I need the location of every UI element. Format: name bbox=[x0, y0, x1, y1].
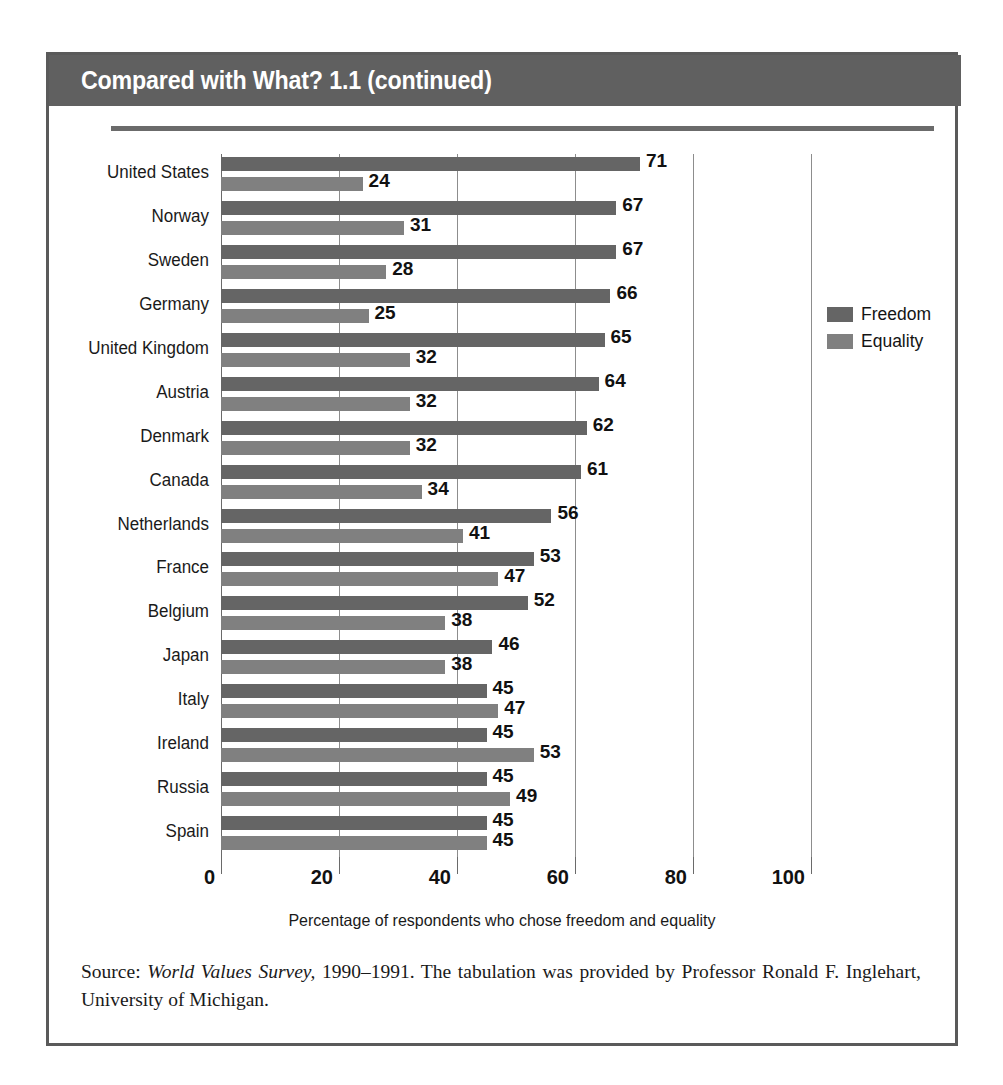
category-label: Russia bbox=[54, 777, 209, 798]
bar-group: 6625 bbox=[221, 287, 811, 331]
source-note: Source: World Values Survey, 1990–1991. … bbox=[81, 958, 921, 1014]
bar-value-freedom: 64 bbox=[605, 374, 626, 388]
tick-mark-100 bbox=[811, 857, 812, 874]
bar-freedom bbox=[221, 201, 616, 215]
bar-group: 6532 bbox=[221, 331, 811, 375]
bar-group: 4545 bbox=[221, 814, 811, 858]
legend-swatch-freedom bbox=[827, 307, 853, 322]
bar-value-freedom: 45 bbox=[493, 769, 514, 783]
bar-value-equality: 53 bbox=[540, 745, 561, 759]
source-prefix: Source: bbox=[81, 961, 147, 982]
bar-group: 6432 bbox=[221, 375, 811, 419]
bar-value-freedom: 45 bbox=[493, 681, 514, 695]
bar-value-freedom: 65 bbox=[611, 330, 632, 344]
tick-label-60: 60 bbox=[513, 866, 569, 889]
bar-freedom bbox=[221, 509, 551, 523]
bar-value-equality: 34 bbox=[428, 482, 449, 496]
bar-value-equality: 24 bbox=[369, 174, 390, 188]
tick-mark-40 bbox=[457, 857, 458, 874]
bar-freedom bbox=[221, 333, 605, 347]
figure-box: Compared with What? 1.1 (continued) Unit… bbox=[46, 52, 958, 1046]
legend-item-freedom: Freedom bbox=[827, 302, 957, 329]
category-label: Denmark bbox=[54, 426, 209, 447]
bar-equality bbox=[221, 397, 410, 411]
bar-value-freedom: 67 bbox=[622, 198, 643, 212]
figure-title: Compared with What? 1.1 (continued) bbox=[81, 66, 492, 95]
axis-title: Percentage of respondents who chose free… bbox=[63, 911, 942, 930]
bar-equality bbox=[221, 265, 386, 279]
bar-value-freedom: 66 bbox=[616, 286, 637, 300]
bar-group: 4553 bbox=[221, 726, 811, 770]
category-label: Netherlands bbox=[54, 514, 209, 535]
legend-label-freedom: Freedom bbox=[861, 302, 931, 327]
category-label: Belgium bbox=[54, 601, 209, 622]
bar-value-equality: 25 bbox=[375, 306, 396, 320]
figure-header-band: Compared with What? 1.1 (continued) bbox=[49, 55, 961, 106]
bar-freedom bbox=[221, 552, 534, 566]
bar-freedom bbox=[221, 421, 587, 435]
bar-equality bbox=[221, 529, 463, 543]
bar-value-equality: 45 bbox=[493, 833, 514, 847]
bar-equality bbox=[221, 177, 363, 191]
bar-equality bbox=[221, 660, 445, 674]
bar-equality bbox=[221, 792, 510, 806]
bar-freedom bbox=[221, 816, 487, 830]
category-label: Italy bbox=[54, 689, 209, 710]
bar-value-freedom: 45 bbox=[493, 813, 514, 827]
value-axis-line bbox=[221, 857, 812, 859]
bar-freedom bbox=[221, 289, 610, 303]
bar-equality bbox=[221, 485, 422, 499]
bar-group: 4638 bbox=[221, 638, 811, 682]
bar-equality bbox=[221, 616, 445, 630]
bar-value-equality: 41 bbox=[469, 526, 490, 540]
bar-value-equality: 32 bbox=[416, 394, 437, 408]
bar-value-freedom: 52 bbox=[534, 593, 555, 607]
bar-equality bbox=[221, 572, 498, 586]
bar-freedom bbox=[221, 684, 487, 698]
bar-value-freedom: 71 bbox=[646, 154, 667, 168]
bar-value-freedom: 67 bbox=[622, 242, 643, 256]
bar-value-equality: 49 bbox=[516, 789, 537, 803]
bar-group: 7124 bbox=[221, 155, 811, 199]
legend-label-equality: Equality bbox=[861, 329, 923, 354]
figure-body: United StatesNorwaySwedenGermanyUnited K… bbox=[49, 106, 955, 1043]
bar-value-freedom: 56 bbox=[557, 506, 578, 520]
plot-area: 7124673167286625653264326232613456415347… bbox=[221, 154, 811, 857]
tick-mark-0 bbox=[221, 857, 222, 874]
bar-equality bbox=[221, 353, 410, 367]
bar-value-equality: 38 bbox=[451, 613, 472, 627]
bar-freedom bbox=[221, 728, 487, 742]
bar-value-equality: 47 bbox=[504, 701, 525, 715]
tick-mark-60 bbox=[575, 857, 576, 874]
tick-mark-20 bbox=[339, 857, 340, 874]
bar-equality bbox=[221, 836, 487, 850]
bar-value-freedom: 46 bbox=[498, 637, 519, 651]
bar-value-equality: 47 bbox=[504, 569, 525, 583]
category-label: Germany bbox=[54, 294, 209, 315]
bar-group: 5238 bbox=[221, 594, 811, 638]
category-label: United Kingdom bbox=[54, 338, 209, 359]
bar-value-freedom: 53 bbox=[540, 549, 561, 563]
legend-item-equality: Equality bbox=[827, 329, 957, 356]
legend-swatch-equality bbox=[827, 334, 853, 349]
chart-legend: Freedom Equality bbox=[827, 302, 957, 356]
gridline-100 bbox=[811, 154, 812, 857]
bar-group: 6134 bbox=[221, 463, 811, 507]
category-axis-labels: United StatesNorwaySwedenGermanyUnited K… bbox=[49, 154, 209, 857]
category-label: France bbox=[54, 557, 209, 578]
bar-value-equality: 38 bbox=[451, 657, 472, 671]
tick-label-80: 80 bbox=[631, 866, 687, 889]
bar-equality bbox=[221, 704, 498, 718]
bar-chart: United StatesNorwaySwedenGermanyUnited K… bbox=[49, 154, 955, 924]
bar-group: 6728 bbox=[221, 243, 811, 287]
bar-value-freedom: 45 bbox=[493, 725, 514, 739]
category-label: Spain bbox=[54, 821, 209, 842]
bar-group: 5641 bbox=[221, 507, 811, 551]
category-label: Japan bbox=[54, 645, 209, 666]
bar-group: 4549 bbox=[221, 770, 811, 814]
bar-value-freedom: 62 bbox=[593, 418, 614, 432]
source-title: World Values Survey, bbox=[147, 961, 315, 982]
bar-freedom bbox=[221, 157, 640, 171]
bar-group: 5347 bbox=[221, 550, 811, 594]
bar-freedom bbox=[221, 640, 492, 654]
